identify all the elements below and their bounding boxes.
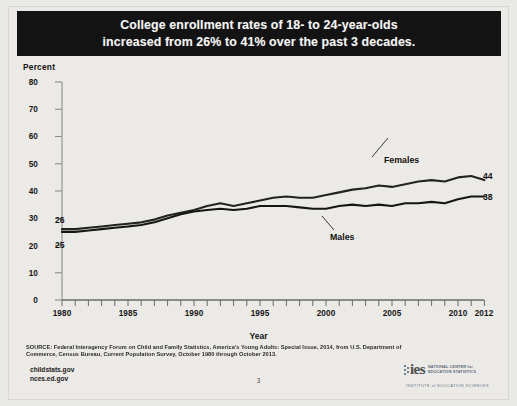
y-tick-40: 40 (16, 187, 38, 196)
x-tick-1995: 1995 (240, 309, 280, 318)
slide-canvas: College enrollment rates of 18- to 24-ye… (0, 0, 517, 406)
y-tick-0: 0 (16, 296, 38, 305)
males-end-value: 38 (483, 192, 493, 202)
ies-logo: ies NATIONAL CENTER for EDUCATION STATIS… (404, 362, 504, 392)
logo-org-line-2: EDUCATION STATISTICS (428, 370, 476, 375)
y-axis-ticks (55, 82, 62, 300)
males-leader-line (322, 216, 334, 230)
title-line-1: College enrollment rates of 18- to 24-ye… (120, 17, 397, 34)
title-line-2: increased from 26% to 41% over the past … (103, 34, 416, 51)
link-childstats[interactable]: childstats.gov (30, 366, 74, 375)
logo-institute-line: INSTITUTE of EDUCATION SCIENCES (406, 383, 489, 388)
logo-dots-icon (404, 365, 410, 379)
x-tick-1990: 1990 (174, 309, 214, 318)
y-tick-10: 10 (16, 269, 38, 278)
x-axis-title: Year (0, 331, 517, 341)
y-tick-60: 60 (16, 132, 38, 141)
x-tick-2000: 2000 (306, 309, 346, 318)
series-label-females: Females (384, 155, 419, 165)
y-tick-80: 80 (16, 78, 38, 87)
chart-plot-area (22, 70, 492, 322)
females-end-value: 44 (483, 171, 493, 181)
x-tick-2005: 2005 (372, 309, 412, 318)
males-start-value: 25 (55, 240, 65, 250)
x-tick-1985: 1985 (108, 309, 148, 318)
x-tick-1980: 1980 (42, 309, 82, 318)
y-tick-70: 70 (16, 105, 38, 114)
females-start-value: 26 (55, 215, 65, 225)
source-note: SOURCE: Federal Interagency Forum on Chi… (26, 344, 426, 359)
series-label-males: Males (330, 232, 354, 242)
logo-wordmark: ies (410, 362, 425, 377)
y-tick-20: 20 (16, 242, 38, 251)
data-line-males (62, 196, 484, 231)
chart-svg (22, 70, 492, 322)
y-tick-30: 30 (16, 214, 38, 223)
logo-org-text: NATIONAL CENTER for EDUCATION STATISTICS (428, 365, 476, 374)
title-banner: College enrollment rates of 18- to 24-ye… (17, 11, 501, 56)
y-tick-50: 50 (16, 160, 38, 169)
x-axis-ticks (62, 300, 484, 306)
x-tick-2012: 2012 (464, 309, 504, 318)
